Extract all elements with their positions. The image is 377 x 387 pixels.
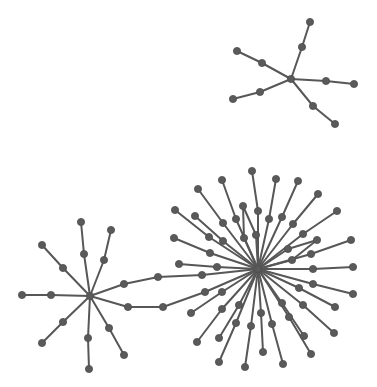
graph-node <box>254 207 261 214</box>
graph-node <box>299 230 306 237</box>
graph-edge <box>51 295 90 296</box>
graph-node <box>218 176 225 183</box>
graph-node <box>232 319 239 326</box>
graph-node <box>218 288 225 295</box>
graph-node <box>105 324 112 331</box>
graph-node <box>107 226 114 233</box>
graph-node <box>18 291 25 298</box>
graph-node <box>171 206 178 213</box>
graph-node <box>80 250 87 257</box>
graph-node <box>213 263 220 270</box>
graph-node <box>350 80 357 87</box>
graph-node <box>86 292 93 299</box>
graph-node <box>287 75 294 82</box>
graph-node <box>100 256 107 263</box>
graph-node <box>284 245 291 252</box>
graph-node <box>191 212 198 219</box>
graph-node <box>193 338 200 345</box>
graph-node <box>215 334 222 341</box>
graph-node <box>306 18 313 25</box>
graph-node <box>240 234 247 241</box>
graph-node <box>247 322 254 329</box>
graph-node <box>295 284 302 291</box>
graph-node <box>254 265 261 272</box>
graph-node <box>59 318 66 325</box>
graph-node <box>235 301 242 308</box>
graph-node <box>206 249 213 256</box>
graph-node <box>272 175 279 182</box>
graph-node <box>285 313 292 320</box>
graph-node <box>288 256 295 263</box>
graph-node <box>248 167 255 174</box>
graph-node <box>278 213 285 220</box>
graph-node <box>59 264 66 271</box>
graph-node <box>349 290 356 297</box>
network-graph-canvas <box>0 0 377 387</box>
graph-node <box>38 241 45 248</box>
graph-node <box>279 360 286 367</box>
graph-node <box>347 236 354 243</box>
graph-node <box>194 185 201 192</box>
graph-node <box>187 309 194 316</box>
graph-node <box>241 363 248 370</box>
graph-node <box>300 332 307 339</box>
graph-node <box>38 339 45 346</box>
graph-node <box>331 120 338 127</box>
graph-node <box>258 59 265 66</box>
graph-node <box>198 271 205 278</box>
graph-node <box>239 202 246 209</box>
graph-node <box>309 280 316 287</box>
graph-node <box>299 301 306 308</box>
graph-node <box>205 233 212 240</box>
graph-edge <box>243 206 244 238</box>
graph-node <box>252 231 259 238</box>
graph-node <box>159 303 166 310</box>
graph-node <box>120 280 127 287</box>
graph-node <box>124 303 131 310</box>
graph-edge <box>88 338 89 369</box>
graph-node <box>309 102 316 109</box>
graph-node <box>257 309 264 316</box>
graph-node <box>278 299 285 306</box>
graph-node <box>120 351 127 358</box>
graph-node <box>170 234 177 241</box>
graph-node <box>232 215 239 222</box>
graph-node <box>175 260 182 267</box>
graph-node <box>349 263 356 270</box>
graph-node <box>330 329 337 336</box>
graph-node <box>265 215 272 222</box>
graph-node <box>85 365 92 372</box>
graph-node <box>298 43 305 50</box>
graph-node <box>154 273 161 280</box>
graph-node <box>233 47 240 54</box>
graph-node <box>307 350 314 357</box>
graph-node <box>256 88 263 95</box>
graph-node <box>331 303 338 310</box>
graph-node <box>322 77 329 84</box>
graph-node <box>268 320 275 327</box>
graph-node <box>219 219 226 226</box>
graph-node <box>84 334 91 341</box>
graph-node <box>259 348 266 355</box>
graph-node <box>219 237 226 244</box>
graph-node <box>215 358 222 365</box>
graph-node <box>307 250 314 257</box>
graph-node <box>314 190 321 197</box>
graph-node <box>229 95 236 102</box>
graph-node <box>47 291 54 298</box>
graph-node <box>77 218 84 225</box>
graph-node <box>294 177 301 184</box>
graph-node <box>218 305 225 312</box>
graph-node <box>201 288 208 295</box>
graph-node <box>289 220 296 227</box>
graph-node <box>309 265 316 272</box>
graph-node <box>333 207 340 214</box>
graph-node <box>313 236 320 243</box>
